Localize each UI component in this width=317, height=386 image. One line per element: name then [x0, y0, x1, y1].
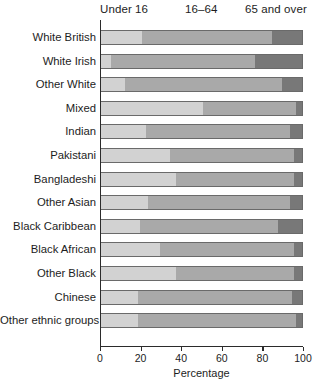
chart-row: Mixed [0, 101, 317, 116]
stacked-bar [100, 30, 303, 45]
y-axis-line [100, 20, 101, 347]
bar-segment-2 [294, 149, 303, 162]
bar-segment-0 [101, 173, 176, 186]
x-axis-line [100, 346, 303, 347]
stacked-bar [100, 148, 303, 163]
row-label-black-african: Black African [0, 242, 96, 257]
stacked-bar [100, 266, 303, 281]
bar-segment-2 [255, 55, 303, 68]
bar-segment-0 [101, 291, 138, 304]
bar-segment-0 [101, 102, 203, 115]
legend-item-16-64: 16–64 [185, 2, 217, 16]
bar-segment-0 [101, 220, 140, 233]
x-tick-label: 40 [175, 352, 187, 364]
bar-segment-1 [203, 102, 296, 115]
bar-segment-0 [101, 55, 111, 68]
bar-segment-2 [294, 243, 303, 256]
chart-row: White Irish [0, 54, 317, 69]
x-tick-label: 0 [97, 352, 103, 364]
chart-row: White British [0, 30, 317, 45]
bar-segment-1 [176, 173, 294, 186]
bar-segment-0 [101, 314, 138, 327]
chart-row: Other Black [0, 266, 317, 281]
bar-segment-1 [146, 125, 290, 138]
stacked-bar [100, 124, 303, 139]
bar-segment-2 [290, 125, 303, 138]
bar-segment-1 [138, 291, 292, 304]
row-label-white-british: White British [0, 30, 96, 45]
stacked-bar [100, 54, 303, 69]
row-label-other-black: Other Black [0, 266, 96, 281]
stacked-bar [100, 290, 303, 305]
legend-item-65-and-over: 65 and over [245, 2, 307, 16]
chart-row: Other Asian [0, 195, 317, 210]
stacked-bar [100, 77, 303, 92]
bar-segment-0 [101, 149, 170, 162]
row-label-mixed: Mixed [0, 101, 96, 116]
x-tick-label: 60 [216, 352, 228, 364]
row-label-chinese: Chinese [0, 290, 96, 305]
bar-segment-1 [176, 267, 294, 280]
row-label-bangladeshi: Bangladeshi [0, 172, 96, 187]
chart-row: Bangladeshi [0, 172, 317, 187]
bar-segment-0 [101, 243, 160, 256]
bar-segment-2 [278, 220, 303, 233]
legend-item-under-16: Under 16 [100, 2, 148, 16]
x-tick-label: 100 [294, 352, 312, 364]
bar-segment-1 [111, 55, 255, 68]
bar-segment-1 [148, 196, 290, 209]
bar-segment-0 [101, 125, 146, 138]
ethnic-group-age-structure-chart: Under 16 16–64 65 and over White British… [0, 0, 317, 386]
stacked-bar [100, 172, 303, 187]
x-tick [262, 347, 263, 351]
chart-row: Indian [0, 124, 317, 139]
bar-segment-0 [101, 267, 176, 280]
chart-row: Black African [0, 242, 317, 257]
x-tick [303, 347, 304, 351]
row-label-white-irish: White Irish [0, 54, 96, 69]
stacked-bar [100, 101, 303, 116]
bar-segment-2 [290, 196, 303, 209]
x-tick [222, 347, 223, 351]
chart-row: Black Caribbean [0, 219, 317, 234]
stacked-bar [100, 195, 303, 210]
bar-segment-2 [294, 173, 303, 186]
x-tick-label: 20 [135, 352, 147, 364]
chart-rows: White BritishWhite IrishOther WhiteMixed… [0, 22, 317, 345]
row-label-black-caribbean: Black Caribbean [0, 219, 96, 234]
chart-row: Chinese [0, 290, 317, 305]
bar-segment-2 [282, 78, 303, 91]
bar-segment-1 [140, 220, 278, 233]
row-label-other-white: Other White [0, 77, 96, 92]
bar-segment-1 [142, 31, 272, 44]
x-tick-label: 80 [257, 352, 269, 364]
chart-legend: Under 16 16–64 65 and over [0, 0, 317, 22]
bar-segment-1 [170, 149, 294, 162]
bar-segment-0 [101, 78, 125, 91]
row-label-other-ethnic-groups: Other ethnic groups [0, 313, 96, 328]
bar-segment-0 [101, 196, 148, 209]
stacked-bar [100, 242, 303, 257]
bar-segment-2 [294, 267, 303, 280]
bar-segment-2 [296, 102, 303, 115]
bar-segment-1 [125, 78, 281, 91]
x-axis-title: Percentage [100, 367, 303, 380]
bar-segment-2 [292, 291, 303, 304]
chart-row: Pakistani [0, 148, 317, 163]
row-label-other-asian: Other Asian [0, 195, 96, 210]
row-label-indian: Indian [0, 124, 96, 139]
stacked-bar [100, 219, 303, 234]
stacked-bar [100, 313, 303, 328]
bar-segment-1 [138, 314, 296, 327]
bar-segment-2 [272, 31, 303, 44]
x-tick [100, 347, 101, 351]
chart-row: Other White [0, 77, 317, 92]
row-label-pakistani: Pakistani [0, 148, 96, 163]
bar-segment-1 [160, 243, 294, 256]
bar-segment-2 [296, 314, 303, 327]
x-tick [181, 347, 182, 351]
chart-row: Other ethnic groups [0, 313, 317, 328]
bar-segment-0 [101, 31, 142, 44]
x-tick [141, 347, 142, 351]
